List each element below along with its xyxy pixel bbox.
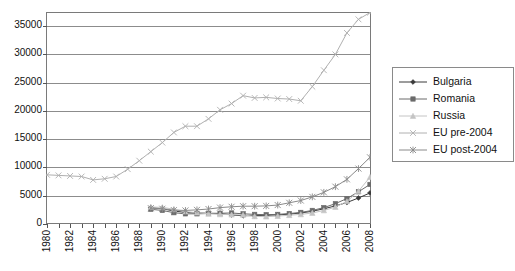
x-axis-tick-label: 1994 [204,230,214,252]
y-axis-tick-label: 0 [36,218,42,228]
gridline [47,83,370,84]
legend-label: Romania [433,93,475,104]
x-axis-tick-label: 1990 [157,230,167,252]
y-axis-tick-label: 10000 [14,161,42,171]
square-marker [411,96,415,100]
x-axis-tick-label: 1998 [250,230,260,252]
x-axis-tick-label: 2008 [365,230,375,252]
x-axis-tick-label: 2002 [296,230,306,252]
diamond-marker [411,79,416,84]
x-axis-tick-label: 1980 [42,230,52,252]
square-icon [398,92,428,106]
x-axis-tick-label: 2000 [273,230,283,252]
y-axis-tick-label: 15000 [14,133,42,143]
legend-label: EU post-2004 [433,144,497,155]
gridline [47,139,370,140]
gridline [47,26,370,27]
x-axis-tick-label: 1982 [65,230,75,252]
y-tick-mark [43,167,47,168]
x-axis-tick-label: 2004 [319,230,329,252]
x-axis-tick-label: 1992 [180,230,190,252]
chart-root: 05000100001500020000250003000035000 1980… [0,0,515,271]
y-tick-mark [43,196,47,197]
legend-item-eu-post-2004[interactable]: EU post-2004 [398,141,497,158]
x-axis-tick-label: 1996 [227,230,237,252]
legend-label: Bulgaria [433,76,472,87]
chart-legend: BulgariaRomaniaRussiaEU pre-2004EU post-… [392,67,514,162]
y-tick-mark [43,83,47,84]
legend-item-romania[interactable]: Romania [398,90,475,107]
cross-icon [398,126,428,140]
y-axis-tick-label: 25000 [14,77,42,87]
x-axis-tick-label: 1984 [88,230,98,252]
x-axis-tick-label: 1986 [111,230,121,252]
gridline [47,196,370,197]
legend-label: Russia [433,110,465,121]
y-axis-tick-label: 30000 [14,48,42,58]
y-axis-tick-label: 5000 [20,190,42,200]
y-tick-mark [43,111,47,112]
y-tick-mark [43,26,47,27]
gridline [47,54,370,55]
y-tick-mark [43,54,47,55]
legend-item-russia[interactable]: Russia [398,107,465,124]
asterisk-icon [398,143,428,157]
triangle-icon [398,109,428,123]
x-axis-tick-label: 1988 [134,230,144,252]
x-axis-labels: 1980198219841986198819901992199419961998… [0,228,515,271]
y-tick-mark [43,139,47,140]
legend-label: EU pre-2004 [433,127,493,138]
y-axis-tick-label: 20000 [14,105,42,115]
diamond-icon [398,75,428,89]
gridline [47,167,370,168]
legend-item-bulgaria[interactable]: Bulgaria [398,73,472,90]
x-axis-tick-label: 2006 [342,230,352,252]
plot-area [46,12,371,224]
gridline [47,111,370,112]
legend-item-eu-pre-2004[interactable]: EU pre-2004 [398,124,493,141]
y-axis-tick-label: 35000 [14,20,42,30]
